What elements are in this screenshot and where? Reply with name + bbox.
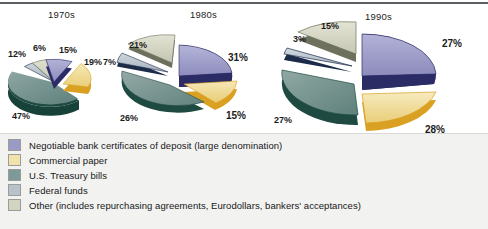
data-label-1980s-cds: 31%: [228, 52, 248, 63]
charts-area: 1970s: [0, 4, 488, 134]
legend-label-cds: Negotiable bank certificates of deposit …: [29, 140, 282, 151]
data-label-1990s-cds: 27%: [442, 38, 462, 49]
legend-swatch-other: [8, 199, 21, 211]
data-label-1990s-other: 15%: [321, 21, 339, 31]
data-label-1990s-treasury-bills: 27%: [274, 115, 292, 125]
data-label-1980s-commercial-paper: 15%: [226, 110, 246, 121]
legend-panel: Negotiable bank certificates of deposit …: [0, 133, 488, 229]
data-label-1980s-treasury-bills: 26%: [120, 113, 138, 123]
legend-swatch-treasury-bills: [8, 169, 21, 181]
legend-swatch-federal-funds: [8, 184, 21, 196]
legend-label-commercial-paper: Commercial paper: [29, 155, 107, 166]
data-label-1970s-commercial-paper: 19%: [84, 57, 102, 67]
data-label-1990s-federal-funds: 3%: [293, 34, 306, 44]
data-label-1970s-cds: 15%: [59, 45, 77, 55]
legend-label-treasury-bills: U.S. Treasury bills: [29, 170, 107, 181]
chart-title-1980s: 1980s: [190, 9, 217, 20]
legend-swatch-cds: [8, 139, 21, 151]
slice-1990s-cds: [362, 34, 436, 90]
legend-label-other: Other (includes repurchasing agreements,…: [29, 200, 361, 211]
slice-1990s-treasury-bills: [282, 70, 358, 125]
money-market-composition-figure: 1970s: [0, 0, 488, 229]
legend-item-federal-funds: Federal funds: [8, 183, 88, 197]
chart-title-1970s: 1970s: [48, 9, 75, 20]
legend-swatch-commercial-paper: [8, 154, 21, 166]
legend-item-commercial-paper: Commercial paper: [8, 153, 107, 167]
legend-item-other: Other (includes repurchasing agreements,…: [8, 198, 361, 212]
legend-item-treasury-bills: U.S. Treasury bills: [8, 168, 107, 182]
data-label-1970s-other: 12%: [8, 49, 26, 59]
legend-item-cds: Negotiable bank certificates of deposit …: [8, 138, 282, 152]
data-label-1970s-treasury-bills: 47%: [12, 111, 30, 121]
legend-label-federal-funds: Federal funds: [29, 185, 88, 196]
data-label-1980s-other: 21%: [129, 40, 147, 50]
slice-1980s-cds: [179, 45, 232, 87]
data-label-1970s-federal-funds: 6%: [33, 43, 46, 53]
data-label-1980s-federal-funds: 7%: [103, 57, 116, 67]
